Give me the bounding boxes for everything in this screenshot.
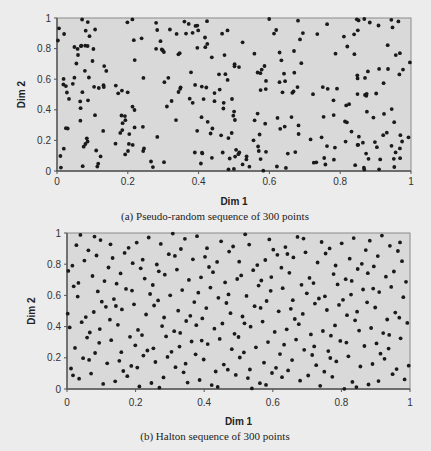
y-tick-label: 1 <box>45 13 51 24</box>
data-point <box>200 151 204 155</box>
x-tick-label: 0 <box>64 397 70 408</box>
data-point <box>347 354 351 358</box>
data-point <box>221 151 225 155</box>
data-point <box>89 372 93 376</box>
data-point <box>126 90 130 94</box>
data-point <box>372 116 376 120</box>
data-point <box>87 76 91 80</box>
x-axis-title: Dim 1 <box>225 416 253 427</box>
data-point <box>344 140 348 144</box>
data-point <box>318 384 322 388</box>
data-point <box>408 61 412 65</box>
data-point <box>194 323 198 327</box>
data-point <box>386 67 390 71</box>
data-point <box>301 312 305 316</box>
data-point <box>188 97 192 101</box>
data-point <box>84 29 88 33</box>
data-point <box>350 279 354 283</box>
data-point <box>150 381 154 385</box>
data-point <box>315 32 319 36</box>
y-tick-label: 0.4 <box>47 321 61 332</box>
data-point <box>128 335 132 339</box>
figure-caption: (a) Pseudo-random sequence of 300 points <box>121 210 309 223</box>
data-point <box>200 85 204 89</box>
data-point <box>377 379 381 383</box>
data-point <box>163 273 167 277</box>
figure-caption: (b) Halton sequence of 300 points <box>140 430 289 443</box>
data-point <box>325 308 329 312</box>
data-point <box>210 156 214 160</box>
data-point <box>366 70 370 74</box>
data-point <box>259 306 263 310</box>
data-point <box>229 311 233 315</box>
data-point <box>275 165 279 169</box>
data-point <box>296 85 300 89</box>
data-point <box>266 340 270 344</box>
data-point <box>180 288 184 292</box>
data-point <box>131 261 135 265</box>
data-point <box>155 28 159 32</box>
data-point <box>227 293 231 297</box>
data-point <box>176 309 180 313</box>
pseudo-random-scatter-chart: 00.20.40.60.8100.20.40.60.81Dim 1Dim 2(a… <box>16 13 414 224</box>
data-point <box>271 248 275 252</box>
data-point <box>362 17 366 21</box>
data-point <box>403 378 407 382</box>
data-point <box>103 279 107 283</box>
data-point <box>278 352 282 356</box>
data-point <box>407 364 411 368</box>
data-point <box>62 32 66 36</box>
data-point <box>66 269 70 273</box>
data-point <box>342 387 346 391</box>
data-point <box>183 20 187 24</box>
data-point <box>76 53 80 57</box>
data-point <box>397 20 401 24</box>
data-point <box>392 120 396 124</box>
data-point <box>282 72 286 76</box>
data-point <box>304 250 308 254</box>
data-point <box>245 294 249 298</box>
data-point <box>69 367 73 371</box>
data-point <box>151 283 155 287</box>
data-point <box>99 155 103 159</box>
data-point <box>340 241 344 245</box>
data-point <box>289 307 293 311</box>
data-point <box>170 350 174 354</box>
data-point <box>159 39 163 43</box>
data-point <box>263 64 267 68</box>
data-point <box>385 131 389 135</box>
data-point <box>178 345 182 349</box>
data-point <box>379 352 383 356</box>
data-point <box>233 64 237 68</box>
data-point <box>298 379 302 383</box>
y-tick-label: 0 <box>55 384 61 395</box>
data-point <box>205 246 209 250</box>
data-point <box>332 272 336 276</box>
data-point <box>224 72 228 76</box>
data-point <box>100 300 104 304</box>
data-point <box>156 299 160 303</box>
data-point <box>237 260 241 264</box>
data-point <box>117 359 121 363</box>
data-point <box>59 154 63 158</box>
data-point <box>216 385 220 389</box>
data-point <box>215 260 219 264</box>
data-point <box>233 118 237 122</box>
data-point <box>146 349 150 353</box>
data-point <box>73 346 77 350</box>
data-point <box>109 338 113 342</box>
data-point <box>87 248 91 252</box>
data-point <box>278 127 282 131</box>
data-point <box>138 385 142 389</box>
data-point <box>154 21 158 25</box>
data-point <box>364 152 368 156</box>
data-point <box>256 71 260 75</box>
data-point <box>312 281 316 285</box>
data-point <box>135 366 139 370</box>
data-point <box>168 293 172 297</box>
data-point <box>218 337 222 341</box>
data-point <box>152 346 156 350</box>
data-point <box>92 310 96 314</box>
data-point <box>242 351 246 355</box>
data-point <box>131 143 135 147</box>
